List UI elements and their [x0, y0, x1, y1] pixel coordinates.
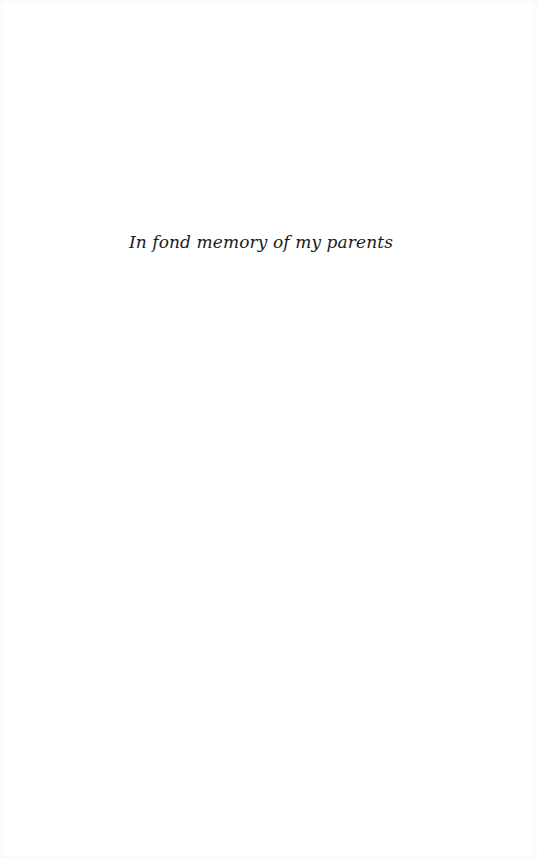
dedication-text: In fond memory of my parents: [0, 231, 522, 253]
book-page: In fond memory of my parents: [0, 0, 537, 858]
